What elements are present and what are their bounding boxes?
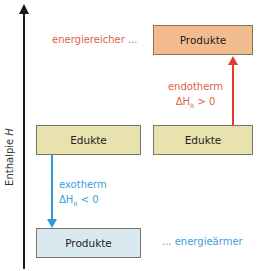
energy-high-label: energiereicher ... — [52, 34, 138, 45]
axis-arrowhead-icon — [19, 4, 29, 14]
products-high-box: Produkte — [153, 25, 253, 55]
endothermic-arrow — [232, 64, 234, 125]
energy-low-label: ... energieärmer — [162, 236, 243, 247]
exothermic-label: exotherm ΔHR < 0 — [59, 177, 129, 211]
reactants-left-box: Edukte — [36, 125, 141, 155]
reactants-right-box: Edukte — [153, 125, 253, 155]
endothermic-label: endotherm ΔHR > 0 — [163, 79, 228, 113]
exothermic-arrow — [51, 155, 53, 219]
exothermic-arrowhead-icon — [47, 219, 57, 228]
enthalpy-axis-line — [23, 12, 25, 269]
axis-label: Enthalpie H — [4, 112, 18, 202]
products-low-box: Produkte — [36, 228, 141, 258]
